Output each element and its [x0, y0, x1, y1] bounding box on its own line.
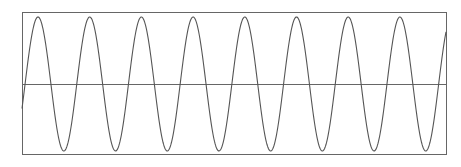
plot-frame	[23, 13, 447, 155]
sine-wave-chart	[0, 0, 461, 167]
chart-caption	[150, 160, 310, 167]
